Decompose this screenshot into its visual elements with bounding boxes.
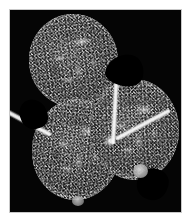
micrograph-black-field: [10, 10, 181, 212]
micrograph-plate-frame: [9, 9, 182, 213]
figure-root: Grayscale micrograph of a multilobed spe…: [0, 0, 190, 223]
bud-lower-right: [133, 164, 148, 178]
specimen-multilobed: [10, 10, 181, 212]
figure-alt-text: Grayscale micrograph of a multilobed spe…: [0, 0, 1, 1]
bud-bottom: [72, 196, 84, 206]
